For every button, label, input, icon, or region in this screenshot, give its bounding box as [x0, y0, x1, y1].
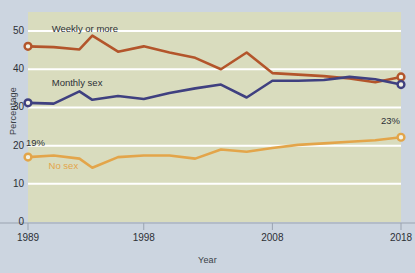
x-tick-label: 2008: [252, 232, 292, 243]
end-value-label: 23%: [381, 115, 400, 126]
series-0-endpoint-marker: [25, 43, 32, 50]
weekly-or-more-label: Weekly or more: [52, 23, 118, 34]
y-tick-label: 20: [6, 140, 24, 151]
x-tick-label: 2018: [381, 232, 415, 243]
x-tick-label: 1998: [124, 232, 164, 243]
y-tick-label: 40: [6, 63, 24, 74]
plot-canvas: [0, 0, 415, 273]
series-0-endpoint-marker: [398, 74, 405, 81]
y-tick-label: 50: [6, 25, 24, 36]
x-tick-label: 1989: [8, 232, 48, 243]
y-tick-label: 30: [6, 101, 24, 112]
start-value-label: 19%: [26, 137, 45, 148]
series-2-endpoint-marker: [25, 154, 32, 161]
no-sex-label: No sex: [49, 160, 79, 171]
series-1-endpoint-marker: [25, 99, 32, 106]
y-tick-label: 10: [6, 178, 24, 189]
y-tick-label: 0: [6, 216, 24, 227]
monthly-sex-label: Monthly sex: [52, 77, 103, 88]
line-chart: Percentage Year 01020304050 198919982008…: [0, 0, 415, 273]
series-1-endpoint-marker: [398, 81, 405, 88]
x-axis-title: Year: [0, 255, 415, 265]
series-2-endpoint-marker: [398, 134, 405, 141]
